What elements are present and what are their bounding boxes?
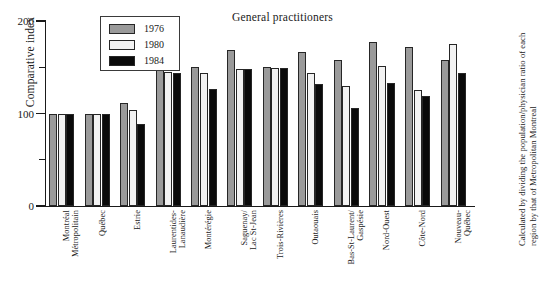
bar-1976	[405, 47, 413, 206]
y-tick-label: 200	[0, 16, 34, 26]
bar-1984	[209, 89, 217, 206]
x-tick-label: Côte-Nord	[419, 210, 428, 287]
bar-group	[227, 21, 253, 206]
bar-1984	[244, 69, 252, 206]
bar-group	[49, 21, 75, 206]
bar-1984	[315, 84, 323, 206]
y-tick-label: 0	[0, 201, 34, 211]
bar-1980	[93, 114, 101, 207]
bar-1976	[191, 67, 199, 206]
bar-1976	[441, 60, 449, 206]
x-axis-line	[45, 206, 475, 207]
legend: 1976 1980 1984	[100, 16, 180, 71]
x-tick-label: Trois-Rivières	[277, 210, 286, 287]
x-tick-label: Nouveau- Québec	[455, 210, 472, 287]
bar-group	[369, 21, 395, 206]
bar-group	[191, 21, 217, 206]
bar-1984	[66, 114, 74, 207]
x-tick-label: Outaouais	[312, 210, 321, 287]
y-tick	[36, 20, 46, 22]
chart-footnote: Calculated by dividing the population/ph…	[517, 16, 543, 246]
bar-1980	[307, 73, 315, 206]
x-tick-label: Bas-St-Laurent/ Gaspésie	[348, 210, 365, 287]
bar-1980	[414, 90, 422, 206]
bar-1976	[49, 114, 57, 207]
bar-group	[441, 21, 467, 206]
bar-1976	[85, 114, 93, 207]
y-tick	[36, 205, 46, 207]
x-tick-label: Saguenay/ Lac St-Jean	[241, 210, 258, 287]
bar-1976	[263, 67, 271, 206]
bar-1984	[351, 108, 359, 206]
bar-1980	[271, 68, 279, 206]
y-tick-label: 100	[0, 109, 34, 119]
bar-group	[298, 21, 324, 206]
bar-1984	[387, 83, 395, 206]
legend-label: 1976	[144, 23, 164, 34]
bar-1980	[129, 110, 137, 206]
bar-1976	[156, 60, 164, 206]
bar-1976	[227, 50, 235, 206]
bar-1984	[173, 73, 181, 206]
x-tick-label: Nord-Ouest	[383, 210, 392, 287]
bar-1984	[102, 114, 110, 207]
bar-1980	[58, 114, 66, 207]
bar-1976	[369, 42, 377, 206]
y-tick	[39, 67, 46, 68]
bar-1980	[449, 44, 457, 206]
y-tick	[39, 159, 46, 160]
bar-1976	[120, 103, 128, 206]
bar-1980	[378, 66, 386, 206]
x-tick-label: Montérégie	[205, 210, 214, 287]
bar-1984	[422, 96, 430, 206]
bar-1976	[298, 52, 306, 206]
x-tick-label: Québec	[99, 210, 108, 287]
bar-group	[334, 21, 360, 206]
gray-swatch-icon	[109, 24, 135, 34]
bar-1980	[342, 86, 350, 206]
x-tick-label: Montréal Métropolitain	[63, 210, 80, 287]
bar-group	[263, 21, 289, 206]
bar-1984	[280, 68, 288, 206]
x-tick-label: Laurentides- Lanaudière	[170, 210, 187, 287]
bar-1984	[137, 124, 145, 206]
legend-label: 1984	[144, 55, 164, 66]
black-swatch-icon	[109, 56, 135, 66]
bar-1976	[334, 60, 342, 206]
bar-group	[405, 21, 431, 206]
legend-label: 1980	[144, 39, 164, 50]
bar-1980	[236, 69, 244, 206]
x-tick-label: Estrie	[134, 210, 143, 287]
y-tick	[36, 113, 46, 115]
white-swatch-icon	[109, 40, 135, 50]
bar-1980	[200, 73, 208, 206]
bar-1984	[458, 73, 466, 206]
bar-1980	[164, 72, 172, 206]
